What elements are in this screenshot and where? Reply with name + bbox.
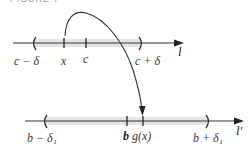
label-c: c — [83, 53, 88, 65]
label-b-plus-delta1: b + δ₁ — [193, 132, 223, 144]
label-b-minus-delta1: b − δ₁ — [27, 132, 57, 144]
label-line-l-prime: l′ — [236, 125, 242, 137]
figure: FIGURE 7 c − δ x c c + δ l b − δ₁ b g(x)… — [0, 0, 251, 155]
label-x: x — [61, 55, 66, 67]
label-b: b — [123, 130, 129, 142]
label-c-plus-delta: c + δ — [135, 55, 160, 67]
label-line-l: l — [178, 46, 182, 58]
label-g-of-x: g(x) — [132, 130, 151, 142]
label-c-minus-delta: c − δ — [14, 55, 39, 67]
mapping-curve — [65, 12, 142, 110]
mapping-arrowhead — [139, 106, 146, 116]
